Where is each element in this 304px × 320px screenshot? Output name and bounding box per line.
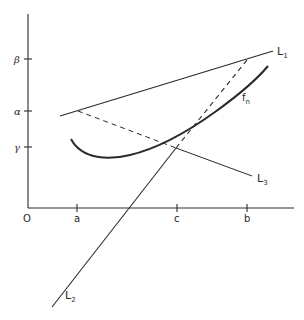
x-label-c: c (174, 213, 180, 224)
line-l1-label: L1 (277, 45, 288, 60)
curve-fn-label: fn (242, 92, 250, 106)
y-label-gamma: γ (14, 142, 20, 153)
line-l2-label: L2 (65, 289, 76, 304)
x-label-b: b (244, 213, 250, 224)
dashed-segment-2 (176, 60, 247, 148)
origin-label: O (23, 213, 31, 224)
line-l1 (60, 51, 273, 116)
y-label-beta: β (13, 54, 20, 65)
axes (24, 14, 294, 212)
diagram: β α γ O a c b L1 fn L2 L3 (0, 0, 304, 320)
curve-fn (71, 66, 268, 158)
line-l3 (176, 148, 252, 176)
x-label-a: a (74, 213, 80, 224)
y-label-alpha: α (14, 106, 21, 117)
line-l3-label: L3 (257, 172, 268, 187)
line-l2 (52, 148, 176, 307)
dashed-segment-1 (78, 111, 176, 148)
